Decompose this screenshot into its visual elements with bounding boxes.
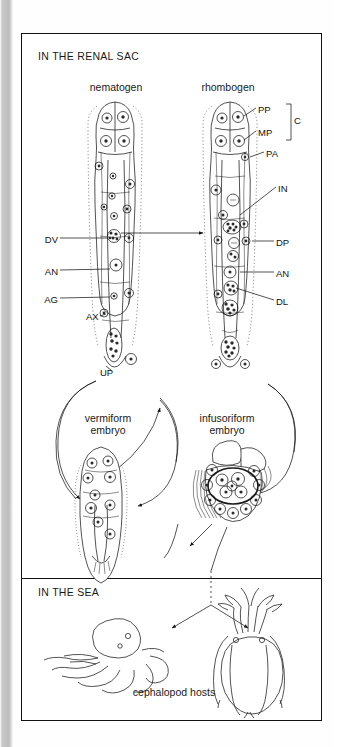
vermiform-body — [80, 447, 123, 583]
host-arrows — [172, 605, 248, 628]
arrow-infusoriform-down-left — [190, 524, 212, 546]
leader-up — [106, 366, 112, 371]
arrow-rhombogen-loop-down — [256, 384, 295, 494]
figure-artwork — [0, 0, 338, 747]
organism-rhombogen — [203, 102, 257, 369]
animal-octopus — [44, 619, 168, 693]
infusoriform-apical-cell-left — [212, 441, 241, 466]
organism-vermiform-embryo — [75, 447, 127, 583]
arrow-vermiform-to-nematogen — [116, 408, 160, 470]
rhombogen-bottom-mass — [224, 340, 235, 357]
leader-pa — [250, 152, 264, 157]
leader-pp — [244, 108, 256, 116]
octopus-mantle — [93, 619, 141, 658]
bracket-calotte — [286, 104, 291, 140]
organism-nematogen — [88, 102, 142, 367]
organism-infusoriform-embryo — [193, 441, 271, 522]
leader-lines — [60, 104, 291, 371]
figure-page: IN THE RENAL SAC IN THE SEA nematogen rh… — [0, 0, 338, 747]
transmission-path-curve — [211, 527, 227, 571]
arrow-to-squid — [211, 605, 248, 628]
animal-squid — [214, 588, 285, 718]
arrow-to-octopus — [172, 605, 211, 628]
